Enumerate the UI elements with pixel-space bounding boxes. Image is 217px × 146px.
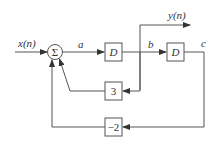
summer-symbol: Σ (52, 46, 58, 58)
signal-b-label: b (148, 38, 154, 50)
output-label: y(n) (167, 9, 186, 22)
gain-neg2-to-summer-arrow (52, 60, 105, 127)
gain-3-to-summer-arrow (60, 59, 106, 91)
feedback-b-arrow (123, 52, 140, 91)
gain-block-neg2-label: −2 (108, 121, 120, 133)
gain-block-3-label: 3 (111, 85, 117, 97)
delay-block-2-label: D (171, 46, 180, 58)
input-label: x(n) (17, 37, 36, 50)
delay-block-1-label: D (109, 46, 118, 58)
signal-c-label: c (201, 37, 206, 49)
block-diagram: x(n) Σ a D b y(n) D c 3 −2 (0, 0, 217, 146)
signal-a-label: a (78, 38, 84, 50)
feedback-c-arrow (123, 52, 204, 127)
